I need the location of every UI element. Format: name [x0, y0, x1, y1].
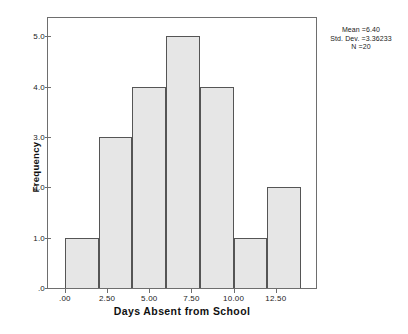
x-tick-mark — [234, 288, 235, 293]
y-tick-mark — [45, 238, 51, 239]
histogram-bar — [234, 238, 268, 288]
histogram-bar — [99, 137, 133, 288]
histogram-bar — [132, 87, 166, 288]
bars-layer — [48, 18, 316, 288]
x-tick-label: 2.50 — [99, 294, 115, 303]
stat-std-dev: Std. Dev. =3.36233 — [318, 35, 404, 44]
y-tick-mark — [45, 288, 51, 289]
y-tick-mark — [45, 87, 51, 88]
histogram-bar — [65, 238, 99, 288]
x-tick-label: 10.00 — [223, 294, 244, 303]
stat-mean: Mean =6.40 — [318, 26, 404, 35]
statistics-annotation: Mean =6.40 Std. Dev. =3.36233 N =20 — [318, 26, 404, 52]
y-tick-mark — [45, 137, 51, 138]
y-tick-label: 5.0 — [33, 32, 45, 41]
x-tick-mark — [149, 288, 150, 293]
y-tick-label: 2.0 — [33, 183, 45, 192]
x-tick-mark — [107, 288, 108, 293]
y-tick-label: .0 — [38, 284, 45, 293]
stat-n: N =20 — [318, 43, 404, 52]
histogram-bar — [200, 87, 234, 288]
histogram-bar — [267, 187, 301, 288]
x-tick-mark — [191, 288, 192, 293]
y-tick-label: 3.0 — [33, 132, 45, 141]
x-tick-label: 12.50 — [265, 294, 286, 303]
x-axis-title: Days Absent from School — [47, 305, 317, 317]
y-tick-label: 1.0 — [33, 233, 45, 242]
x-tick-mark — [276, 288, 277, 293]
histogram-chart: Frequency .01.02.03.04.05.0 .002.505.007… — [0, 0, 408, 334]
y-tick-mark — [45, 187, 51, 188]
x-tick-mark — [65, 288, 66, 293]
x-tick-label: .00 — [59, 294, 71, 303]
y-tick-label: 4.0 — [33, 82, 45, 91]
x-tick-label: 5.00 — [141, 294, 157, 303]
y-tick-mark — [45, 36, 51, 37]
x-tick-label: 7.50 — [183, 294, 199, 303]
plot-area: .01.02.03.04.05.0 .002.505.007.5010.0012… — [47, 17, 317, 289]
histogram-bar — [166, 36, 200, 288]
